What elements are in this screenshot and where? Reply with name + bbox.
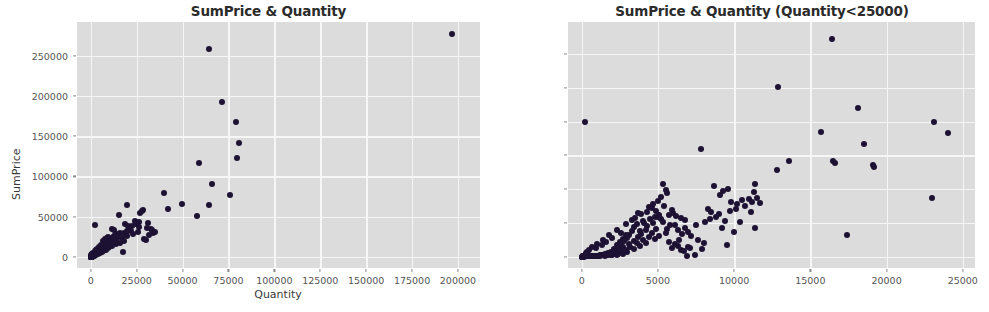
data-point [88, 252, 94, 258]
x-tick-mark [581, 269, 582, 272]
gridline-vertical [228, 22, 229, 268]
data-point [707, 216, 713, 222]
y-tick-label: 200000 [32, 90, 68, 101]
data-point [664, 190, 670, 196]
x-tick-mark [657, 269, 658, 272]
gridline-vertical [412, 22, 413, 268]
data-point [653, 208, 659, 214]
data-point [682, 217, 688, 223]
y-tick-mark [73, 256, 76, 257]
gridline-vertical [810, 22, 811, 268]
data-point [679, 231, 685, 237]
data-point [775, 84, 781, 90]
x-tick-mark [90, 269, 91, 272]
data-point [676, 237, 682, 243]
data-point [161, 190, 167, 196]
gridline-horizontal [77, 176, 480, 177]
data-point [711, 183, 717, 189]
data-point [663, 230, 669, 236]
data-point [629, 217, 635, 223]
x-tick-mark [457, 269, 458, 272]
data-point [931, 119, 937, 125]
gridline-vertical [887, 22, 888, 268]
x-tick-label: 175000 [394, 275, 430, 286]
data-point [637, 243, 643, 249]
data-point [717, 192, 723, 198]
x-tick-label: 125000 [302, 275, 338, 286]
data-point [206, 202, 212, 208]
data-point [742, 203, 748, 209]
gridline-vertical [582, 22, 583, 268]
x-tick-mark [411, 269, 412, 272]
x-tick-mark [734, 269, 735, 272]
data-point [643, 240, 649, 246]
data-point [449, 31, 455, 37]
x-tick-label: 150000 [348, 275, 384, 286]
data-point [716, 211, 722, 217]
data-point [209, 181, 215, 187]
y-tick-mark [564, 222, 567, 223]
data-point [234, 155, 240, 161]
y-tick-label: 250000 [32, 50, 68, 61]
plot-area-right [568, 22, 975, 268]
x-tick-mark [182, 269, 183, 272]
x-axis-label-left: Quantity [254, 288, 302, 301]
data-point [661, 203, 667, 209]
data-point [774, 167, 780, 173]
data-point [693, 222, 699, 228]
y-tick-mark [564, 188, 567, 189]
data-point [752, 225, 758, 231]
data-point [945, 130, 951, 136]
scatter-plot-figure: SumPrice & Quantity 05000010000015000020… [0, 0, 989, 312]
x-tick-mark [228, 269, 229, 272]
x-tick-label: 25000 [122, 275, 152, 286]
data-point [583, 250, 589, 256]
y-tick-mark [564, 87, 567, 88]
x-tick-label: 50000 [167, 275, 197, 286]
data-point [660, 219, 666, 225]
x-tick-label: 0 [88, 275, 94, 286]
x-tick-label: 10000 [719, 275, 749, 286]
data-point [666, 239, 672, 245]
data-point [236, 140, 242, 146]
data-point [692, 252, 698, 258]
data-point [638, 211, 644, 217]
data-point [121, 238, 127, 244]
y-tick-mark [73, 176, 76, 177]
data-point [757, 200, 763, 206]
gridline-horizontal [568, 122, 975, 123]
y-tick-mark [564, 155, 567, 156]
gridline-horizontal [77, 56, 480, 57]
data-point [640, 218, 646, 224]
data-point [855, 105, 861, 111]
gridline-horizontal [568, 223, 975, 224]
gridline-vertical [458, 22, 459, 268]
chart-title-left: SumPrice & Quantity [0, 3, 495, 19]
data-point [650, 201, 656, 207]
data-point [646, 234, 652, 240]
x-tick-mark [136, 269, 137, 272]
data-point [722, 218, 728, 224]
data-point [124, 228, 130, 234]
gridline-horizontal [568, 88, 975, 89]
gridline-vertical [183, 22, 184, 268]
data-point [675, 227, 681, 233]
data-point [196, 160, 202, 166]
data-point [609, 235, 615, 241]
data-point [593, 245, 599, 251]
plot-area-left [77, 22, 480, 268]
chart-panel-right: SumPrice & Quantity (Quantity<25000) 010… [495, 0, 989, 312]
x-tick-mark [962, 269, 963, 272]
y-tick-mark [564, 121, 567, 122]
gridline-horizontal [568, 189, 975, 190]
data-point [658, 194, 664, 200]
y-tick-mark [73, 136, 76, 137]
data-point [687, 245, 693, 251]
data-point [582, 119, 588, 125]
data-point [650, 220, 656, 226]
data-point [623, 221, 629, 227]
gridline-horizontal [77, 136, 480, 137]
data-point [120, 249, 126, 255]
gridline-vertical [274, 22, 275, 268]
data-point [818, 129, 824, 135]
